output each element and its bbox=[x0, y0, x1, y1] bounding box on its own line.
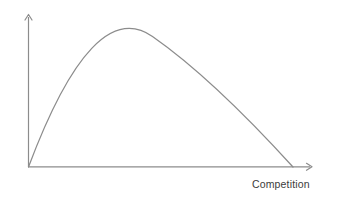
chart-plot-area bbox=[0, 0, 337, 203]
chart-figure: Innovation Competition bbox=[0, 0, 337, 203]
innovation-curve bbox=[29, 28, 294, 167]
x-axis-label: Competition bbox=[252, 177, 310, 191]
